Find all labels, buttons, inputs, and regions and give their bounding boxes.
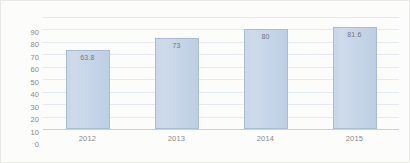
bar-slot: 81.6: [333, 17, 377, 129]
y-axis-tick-label: 80: [5, 42, 39, 50]
bar-value-label: 80: [245, 33, 287, 40]
y-axis-tick-label: 20: [5, 116, 39, 124]
x-axis: 2012201320142015: [43, 135, 399, 151]
plot-area: 63.8738081.6: [43, 17, 399, 129]
y-axis-tick-label: 60: [5, 67, 39, 75]
bar-value-label: 73: [156, 42, 198, 49]
bar-slot: 80: [244, 17, 288, 129]
x-axis-tick-label: 2014: [236, 135, 296, 143]
x-axis-tick-label: 2015: [325, 135, 385, 143]
y-axis-tick-label: 90: [5, 29, 39, 37]
y-axis-tick-label: 40: [5, 91, 39, 99]
bar-chart-figure: 9080706050403020100 63.8738081.6 2012201…: [0, 0, 410, 163]
y-axis-tick-label: 50: [5, 79, 39, 87]
bar-value-label: 81.6: [334, 31, 376, 38]
y-axis-tick-label: 10: [5, 129, 39, 137]
y-axis: 9080706050403020100: [1, 17, 39, 129]
bar-slot: 63.8: [66, 17, 110, 129]
bar-2015[interactable]: 81.6: [333, 27, 377, 129]
x-axis-tick-label: 2012: [58, 135, 118, 143]
y-axis-tick-label: 30: [5, 104, 39, 112]
bar-slot: 73: [155, 17, 199, 129]
y-axis-tick-label: 0: [5, 141, 39, 149]
bar-2012[interactable]: 63.8: [66, 50, 110, 129]
x-axis-tick-label: 2013: [147, 135, 207, 143]
bar-2014[interactable]: 80: [244, 29, 288, 129]
bar-2013[interactable]: 73: [155, 38, 199, 129]
bar-value-label: 63.8: [67, 54, 109, 61]
y-axis-tick-label: 70: [5, 54, 39, 62]
axis-baseline: [43, 129, 399, 130]
